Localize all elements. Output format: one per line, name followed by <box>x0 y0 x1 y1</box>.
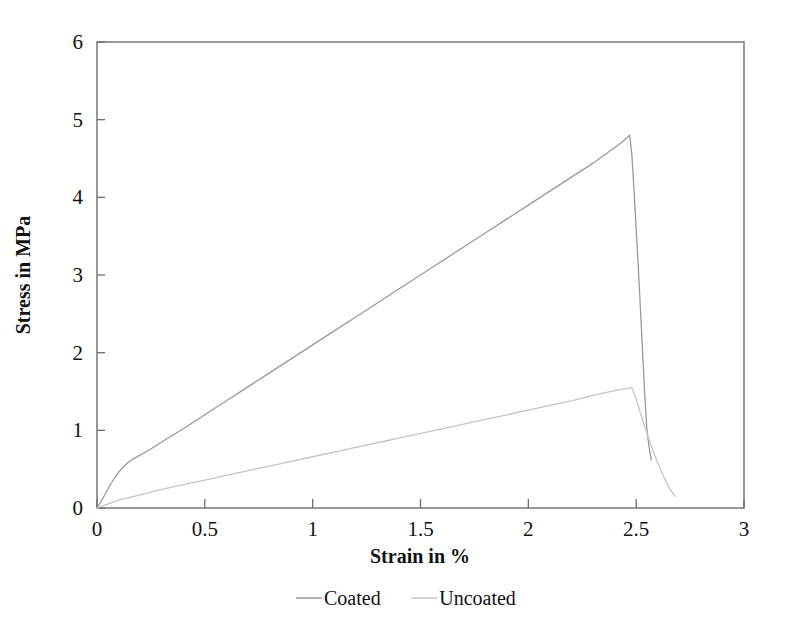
x-axis-title: Strain in % <box>370 545 470 567</box>
y-tick-label: 5 <box>73 108 84 132</box>
x-tick-label: 3 <box>739 517 750 541</box>
x-tick-label: 0.5 <box>192 517 218 541</box>
y-axis-title: Stress in MPa <box>12 216 34 335</box>
y-tick-label: 0 <box>73 496 84 520</box>
y-tick-label: 4 <box>73 185 84 209</box>
x-tick-label: 2.5 <box>623 517 649 541</box>
chart-canvas: 0123456 00.511.522.53 Strain in % Stress… <box>0 0 788 642</box>
chart-legend: CoatedUncoated <box>296 587 516 609</box>
y-tick-label: 3 <box>73 263 84 287</box>
x-tick-label: 2 <box>523 517 534 541</box>
y-tick-label: 6 <box>73 30 84 54</box>
x-tick-label: 1.5 <box>407 517 433 541</box>
legend-label-uncoated: Uncoated <box>439 587 516 609</box>
y-tick-label: 1 <box>73 418 84 442</box>
x-tick-label: 1 <box>307 517 318 541</box>
stress-strain-chart: 0123456 00.511.522.53 Strain in % Stress… <box>0 0 788 642</box>
y-tick-label: 2 <box>73 341 84 365</box>
x-tick-label: 0 <box>92 517 103 541</box>
legend-label-coated: Coated <box>324 587 381 609</box>
